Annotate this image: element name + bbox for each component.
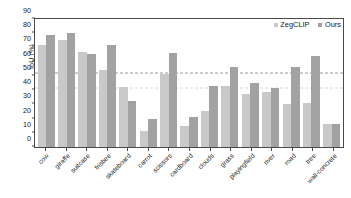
bar [230, 67, 239, 147]
x-axis-tick-mark [66, 148, 67, 151]
bar-chart-figure: IoU (%) 0102030405060708090 cowgiraffesu… [0, 0, 351, 198]
legend-swatch [274, 23, 278, 27]
bar [119, 87, 128, 147]
bar [189, 117, 198, 147]
x-axis-tick-mark [251, 148, 252, 151]
x-axis-tick-mark [148, 148, 149, 151]
bar [38, 45, 47, 147]
bar [311, 56, 320, 147]
bar [160, 74, 169, 147]
bar [58, 40, 67, 147]
bar-group [240, 19, 260, 147]
bar [148, 119, 157, 147]
x-axis-tick-label: tree [304, 152, 317, 165]
legend-label: Ours [325, 20, 341, 29]
x-axis-label-group: cowgiraffesuitcasefrisbeeskateboardcarro… [34, 152, 344, 198]
x-axis-label-cell: river [261, 152, 282, 198]
x-axis-label-cell: cardboard [179, 152, 200, 198]
x-axis-tick-label: clouds [196, 152, 214, 170]
x-axis-label-cell: cow [35, 152, 56, 198]
bar-group [281, 19, 301, 147]
bar-group [77, 19, 97, 147]
bar-group [158, 19, 178, 147]
x-axis-tick-mark [333, 148, 334, 151]
x-axis-label-cell: giraffe [56, 152, 77, 198]
x-axis-label-cell: carrot [138, 152, 159, 198]
legend-swatch [318, 23, 322, 27]
bar-group [56, 19, 76, 147]
x-axis-label-cell: suitcase [76, 152, 97, 198]
legend-item: ZegCLIP [274, 20, 310, 29]
y-axis-tick-label: 70 [23, 34, 31, 43]
x-axis-tick-label: river [262, 152, 276, 166]
bar-group [301, 19, 321, 147]
x-axis-tick-label: carrot [136, 152, 153, 169]
y-axis-tick-label: 30 [23, 91, 31, 100]
x-axis-tick-label: giraffe [53, 152, 71, 170]
x-axis-tick-label: road [282, 152, 296, 166]
bar-group [260, 19, 280, 147]
y-axis-tick-label: 90 [23, 6, 31, 15]
bar-group [179, 19, 199, 147]
y-axis-tick-label: 50 [23, 62, 31, 71]
legend-item: Ours [318, 20, 341, 29]
bar [180, 126, 189, 147]
x-axis-label-cell: wall-concrete [322, 152, 343, 198]
bar [291, 67, 300, 147]
x-axis-tick-mark [271, 148, 272, 151]
bar [221, 86, 230, 147]
bar [78, 52, 87, 147]
bar [67, 33, 76, 147]
x-axis-tick-mark [210, 148, 211, 151]
bar [271, 88, 280, 147]
bar-group [118, 19, 138, 147]
x-axis-label-cell: clouds [199, 152, 220, 198]
y-axis-tick-label: 60 [23, 48, 31, 57]
x-axis-label-cell: playingfield [240, 152, 261, 198]
x-axis-tick-label: grass [219, 152, 235, 168]
bar-group [97, 19, 117, 147]
bar-group [199, 19, 219, 147]
bar [201, 111, 210, 147]
y-axis-tick-label: 20 [23, 105, 31, 114]
plot-area: 0102030405060708090 [34, 18, 344, 148]
x-axis-tick-mark [107, 148, 108, 151]
x-axis-tick-mark [86, 148, 87, 151]
bar [262, 92, 271, 147]
x-axis-tick-mark [292, 148, 293, 151]
bar [46, 35, 55, 147]
x-axis-tick-mark [168, 148, 169, 151]
bar [140, 131, 149, 147]
x-axis-tick-mark [45, 148, 46, 151]
x-axis-tick-mark [230, 148, 231, 151]
y-axis-tick-label: 10 [23, 119, 31, 128]
x-axis-tick-mark [189, 148, 190, 151]
x-axis-tick-mark [127, 148, 128, 151]
bar-group [322, 19, 342, 147]
bar [128, 101, 137, 147]
bar [87, 54, 96, 147]
bar-group-container [35, 19, 343, 147]
bar [99, 70, 108, 148]
y-axis-tick-label: 40 [23, 77, 31, 86]
y-axis-tick-label: 80 [23, 20, 31, 29]
bar [332, 124, 341, 147]
bar-group [220, 19, 240, 147]
y-axis-tick-label: 0 [27, 134, 31, 143]
bar-group [36, 19, 56, 147]
bar [169, 53, 178, 147]
x-axis-tick-mark [312, 148, 313, 151]
bar-group [138, 19, 158, 147]
bar [303, 103, 312, 147]
x-axis-label-cell: skateboard [117, 152, 138, 198]
bar [323, 124, 332, 147]
bar [107, 45, 116, 147]
legend-label: ZegCLIP [280, 20, 309, 29]
bar [242, 94, 251, 147]
chart-legend: ZegCLIPOurs [272, 19, 343, 30]
bar [250, 83, 259, 147]
bar [283, 104, 292, 147]
x-axis-tick-label: cow [37, 152, 50, 165]
x-axis-label-cell: road [281, 152, 302, 198]
bar [209, 86, 218, 147]
